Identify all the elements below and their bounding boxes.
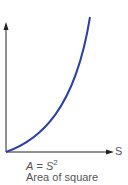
graph — [0, 0, 128, 185]
x-axis-arrow-icon — [106, 150, 114, 155]
caption: Area of square — [26, 171, 98, 183]
x-axis-label: S — [115, 145, 122, 157]
formula: A = S2 — [26, 158, 58, 172]
curve-a-equals-s-squared — [6, 17, 90, 152]
formula-eq: = — [33, 160, 46, 172]
y-axis-arrow-icon — [4, 22, 9, 30]
formula-exponent: 2 — [53, 158, 57, 167]
